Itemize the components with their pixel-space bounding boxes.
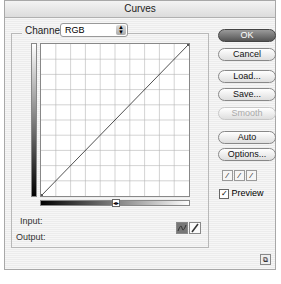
window-title: Curves [5,1,275,18]
input-label: Input: [20,216,43,226]
load-button[interactable]: Load... [218,70,276,83]
black-eyedropper-icon[interactable]: ⁄ [222,170,233,181]
pencil-tool-icon[interactable] [189,222,201,234]
output-label: Output: [16,232,46,242]
channel-select[interactable]: RGB ▲▼ [60,23,128,37]
curve-tool-icon[interactable] [176,222,188,234]
curve-graph[interactable] [40,43,190,197]
white-eyedropper-icon[interactable]: ⁄ [246,170,257,181]
output-gradient-bar [31,43,37,197]
curve-point[interactable] [40,194,43,197]
expand-icon[interactable]: ⧉ [260,254,271,265]
auto-button[interactable]: Auto [218,131,276,144]
gradient-toggle-icon[interactable]: ◂▸ [112,199,120,207]
channel-value: RGB [65,25,85,35]
smooth-button[interactable]: Smooth [218,107,276,120]
ok-button[interactable]: OK [218,29,276,42]
options-button[interactable]: Options... [218,148,276,161]
cancel-button[interactable]: Cancel [218,48,276,61]
gray-eyedropper-icon[interactable]: ⁄ [234,170,245,181]
save-button[interactable]: Save... [218,88,276,101]
preview-checkbox[interactable]: ✓ Preview [219,188,264,199]
curve-point[interactable] [187,43,190,46]
select-arrows-icon: ▲▼ [116,25,126,35]
checkbox-icon: ✓ [219,189,229,199]
preview-label: Preview [232,188,264,198]
